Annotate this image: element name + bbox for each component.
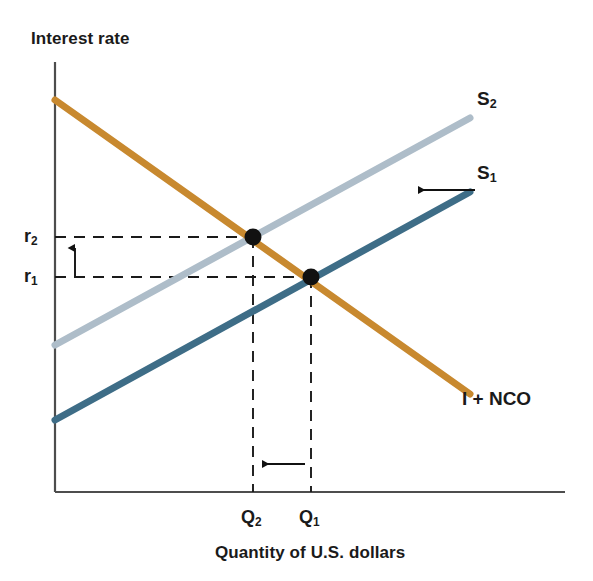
loanable-funds-plot xyxy=(0,0,593,581)
supply-curve-s1 xyxy=(55,192,470,420)
y-tick-label-r1: r1 xyxy=(24,267,38,285)
x-tick-label-q2: Q2 xyxy=(241,508,262,526)
equilibrium-point-initial xyxy=(303,269,320,286)
x-tick-label-q2-text: Q xyxy=(241,507,255,527)
y-tick-label-r2-text: r xyxy=(24,226,31,246)
x-tick-label-q2-subscript: 2 xyxy=(255,515,262,529)
economics-chart-figure: Interest rate Quantity of U.S. dollars S… xyxy=(0,0,593,581)
x-axis-title: Quantity of U.S. dollars xyxy=(215,544,405,561)
curve-label-s1: S1 xyxy=(477,163,497,182)
equilibrium-point-new xyxy=(245,229,262,246)
curve-label-s2: S2 xyxy=(477,89,497,108)
y-tick-label-r1-text: r xyxy=(24,266,31,286)
curve-label-s2-subscript: 2 xyxy=(490,97,497,111)
curve-label-i-plus-nco: I + NCO xyxy=(462,389,531,408)
y-tick-label-r2-subscript: 2 xyxy=(31,234,38,248)
demand-curve-i-plus-nco xyxy=(55,100,470,394)
y-tick-label-r1-subscript: 1 xyxy=(31,274,38,288)
x-tick-label-q1-text: Q xyxy=(299,507,313,527)
curve-label-s2-text: S xyxy=(477,88,490,109)
y-tick-label-r2: r2 xyxy=(24,227,38,245)
y-axis-title: Interest rate xyxy=(31,30,130,47)
x-tick-label-q1-subscript: 1 xyxy=(313,515,320,529)
x-tick-label-q1: Q1 xyxy=(299,508,320,526)
curve-label-s1-text: S xyxy=(477,162,490,183)
supply-curve-s2 xyxy=(55,118,470,345)
curve-label-s1-subscript: 1 xyxy=(490,171,497,185)
